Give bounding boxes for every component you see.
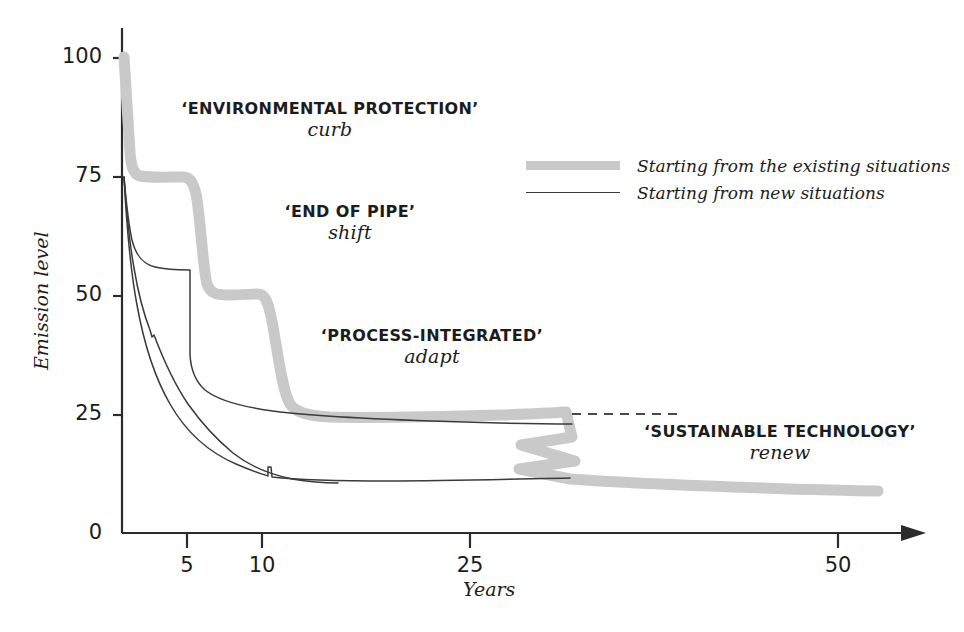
y-tick-label-100: 100 — [40, 44, 102, 68]
x-axis-arrow — [901, 525, 926, 541]
x-axis-title: Years — [463, 578, 515, 600]
annotation-end-of-pipe: ‘END OF PIPE’ shift — [285, 203, 416, 243]
annotation-subtitle: shift — [285, 222, 416, 243]
annotation-subtitle: curb — [181, 119, 479, 140]
annotation-sustainable-technology: ‘SUSTAINABLE TECHNOLOGY’ renew — [644, 423, 916, 463]
annotation-title: ‘SUSTAINABLE TECHNOLOGY’ — [644, 423, 916, 441]
x-tick-label-5: 5 — [157, 553, 217, 577]
x-tick-label-50: 50 — [808, 553, 868, 577]
y-tick-label-0: 0 — [40, 520, 102, 544]
legend-item-existing: Starting from the existing situations — [526, 152, 926, 179]
y-tick-label-75: 75 — [40, 163, 102, 187]
annotation-environmental-protection: ‘ENVIRONMENTAL PROTECTION’ curb — [181, 100, 479, 140]
y-tick-label-25: 25 — [40, 401, 102, 425]
x-tick-label-10: 10 — [232, 553, 292, 577]
x-tick-label-25: 25 — [440, 553, 500, 577]
legend-label-new: Starting from new situations — [637, 183, 885, 203]
annotation-subtitle: adapt — [321, 346, 543, 367]
legend-label-existing: Starting from the existing situations — [637, 156, 950, 176]
chart-canvas — [0, 0, 964, 632]
chart-legend: Starting from the existing situations St… — [526, 152, 926, 206]
annotation-process-integrated: ‘PROCESS-INTEGRATED’ adapt — [321, 327, 543, 367]
chart-figure: 100 75 50 25 0 5 10 25 50 Emission level… — [0, 0, 964, 632]
legend-swatch-thin-black-icon — [526, 188, 620, 197]
legend-item-new: Starting from new situations — [526, 179, 926, 206]
y-axis-title: Emission level — [30, 231, 52, 370]
annotation-title: ‘PROCESS-INTEGRATED’ — [321, 327, 543, 345]
annotation-title: ‘END OF PIPE’ — [285, 203, 416, 221]
annotation-title: ‘ENVIRONMENTAL PROTECTION’ — [181, 100, 479, 118]
annotation-subtitle: renew — [644, 442, 916, 463]
legend-swatch-thick-grey-icon — [526, 161, 620, 170]
